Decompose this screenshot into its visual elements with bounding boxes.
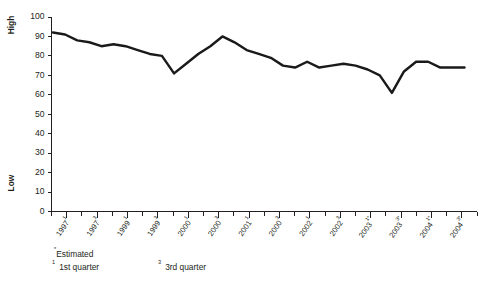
x-tick-label: 20023 [325, 214, 347, 238]
axis-name-labels: HighLow [6, 16, 16, 192]
x-tick-label: 19973 [82, 214, 104, 238]
x-tick-year: 2000 [176, 219, 193, 238]
x-tick-year: 2000 [267, 219, 284, 238]
y-axis-high-label: High [6, 16, 16, 35]
y-tick-label: 50 [35, 109, 45, 119]
chart-container: 0102030405060708090100 19971199731999119… [0, 0, 498, 289]
footnote-q3: 33rd quarter [158, 259, 206, 272]
x-tick-year: 2004 [448, 221, 465, 240]
x-tick-label: 20003 [264, 214, 286, 238]
x-tick-year: 1997 [85, 219, 102, 238]
footnote-q3-text: 3rd quarter [165, 262, 206, 272]
y-tick-label: 90 [35, 31, 45, 41]
x-tick-year: 2001 [236, 219, 253, 238]
x-tick-label: 20003 [203, 214, 225, 238]
y-tick-label: 10 [35, 186, 45, 196]
y-tick-label: 100 [30, 11, 45, 21]
x-tick-year: 2003 [357, 221, 374, 240]
x-tick-year: 1999 [115, 219, 132, 238]
x-tick-label: 20021 [294, 214, 316, 238]
y-tick-label: 40 [35, 128, 45, 138]
x-tick-label: 20041* [415, 214, 438, 239]
x-tick-year: 2002 [297, 219, 314, 238]
x-tick-label: 20031* [354, 214, 377, 239]
x-tick-label: 19991 [112, 214, 134, 238]
footnote-estimated-text: Estimated [56, 249, 94, 259]
x-axis: 1997119973199911999320001200032001120003… [51, 212, 477, 240]
series-line [53, 33, 465, 93]
x-tick-label: 19971 [51, 214, 73, 238]
y-tick-label: 80 [35, 50, 45, 60]
x-tick-year: 2003 [387, 221, 404, 240]
x-tick-label: 19993 [142, 214, 164, 238]
y-tick-label: 60 [35, 89, 45, 99]
x-tick-label: 20011 [234, 214, 256, 238]
footnote-q3-sup: 3 [158, 259, 161, 265]
x-tick-year: 1997 [54, 219, 71, 238]
line-chart: 0102030405060708090100 19971199731999119… [0, 0, 498, 289]
x-tick-year: 1999 [145, 219, 162, 238]
footnote-estimated: *Estimated [54, 246, 94, 259]
x-tick-year: 2002 [328, 219, 345, 238]
x-tick-label: 20033* [384, 214, 407, 239]
footnotes: *Estimated11st quarter33rd quarter [52, 246, 206, 272]
footnote-q1-text: 1st quarter [59, 262, 99, 272]
x-tick-label: 20043* [445, 214, 468, 239]
y-tick-label: 30 [35, 147, 45, 157]
y-axis-low-label: Low [6, 174, 16, 191]
footnote-q1-sup: 1 [52, 259, 55, 265]
x-tick-label: 20001 [173, 214, 195, 238]
y-axis: 0102030405060708090100 [30, 11, 51, 216]
x-tick-year: 2004 [418, 221, 435, 240]
y-tick-label: 20 [35, 167, 45, 177]
data-series [53, 33, 465, 93]
y-tick-label: 70 [35, 70, 45, 80]
y-tick-label: 0 [40, 206, 45, 216]
x-tick-year: 2000 [206, 219, 223, 238]
footnote-q1: 11st quarter [52, 259, 99, 272]
